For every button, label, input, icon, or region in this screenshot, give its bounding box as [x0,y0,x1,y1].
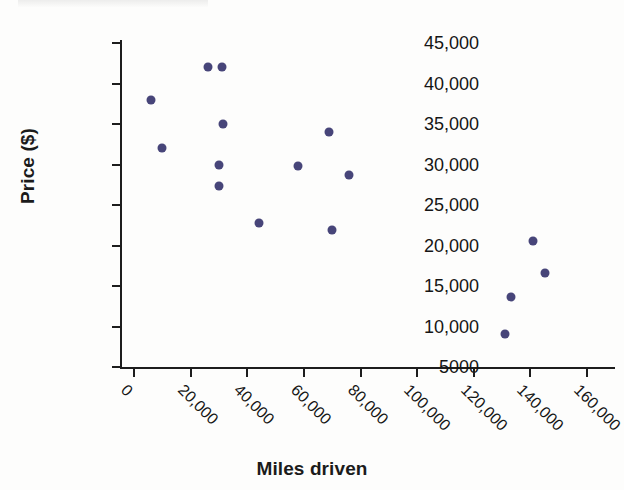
y-tick-label: 45,000 [424,33,479,54]
data-point [214,160,223,169]
data-point [540,269,549,278]
y-axis-line [120,40,122,368]
y-tick [112,164,120,166]
y-tick-label: 15,000 [424,276,479,297]
data-point [294,162,303,171]
cropped-title-remnant [18,0,208,9]
data-point [203,63,212,72]
data-point [219,120,228,129]
x-tick-label: 20,000 [174,381,221,428]
y-tick [112,326,120,328]
x-tick-label: 120,000 [457,381,511,435]
x-tick [529,369,531,377]
data-point [506,292,515,301]
y-tick [112,245,120,247]
data-point [214,181,223,190]
y-tick [112,123,120,125]
plot-area: 500010,00015,00020,00025,00030,00035,000… [120,43,613,367]
x-tick [416,369,418,377]
x-tick-label: 140,000 [514,381,568,435]
y-tick-label: 25,000 [424,195,479,216]
x-tick-label: 40,000 [231,381,278,428]
x-tick [303,369,305,377]
data-point [529,236,538,245]
y-tick [112,42,120,44]
x-axis-title: Miles driven [0,458,624,480]
x-tick [586,369,588,377]
x-tick [190,369,192,377]
y-axis-title: Price ($) [17,86,39,246]
data-point [345,171,354,180]
y-tick-label: 35,000 [424,114,479,135]
x-tick-label: 0 [117,381,136,400]
data-point [325,128,334,137]
x-tick [360,369,362,377]
y-tick-label: 30,000 [424,154,479,175]
y-tick [112,366,120,368]
data-point [328,226,337,235]
data-point [500,329,509,338]
y-tick [112,83,120,85]
data-point [217,63,226,72]
x-tick [133,369,135,377]
y-tick-label: 10,000 [424,316,479,337]
x-tick-label: 60,000 [287,381,334,428]
y-tick-label: 40,000 [424,73,479,94]
x-tick [473,369,475,377]
y-tick-label: 20,000 [424,235,479,256]
x-tick-label: 100,000 [400,381,454,435]
x-axis-line [120,367,615,369]
y-tick [112,285,120,287]
x-tick [246,369,248,377]
data-point [254,218,263,227]
data-point [158,144,167,153]
x-tick-label: 80,000 [344,381,391,428]
y-tick [112,204,120,206]
data-point [146,95,155,104]
scatter-plot-figure: Price ($) Miles driven 500010,00015,0002… [0,0,624,490]
x-tick-label: 160,000 [570,381,624,435]
